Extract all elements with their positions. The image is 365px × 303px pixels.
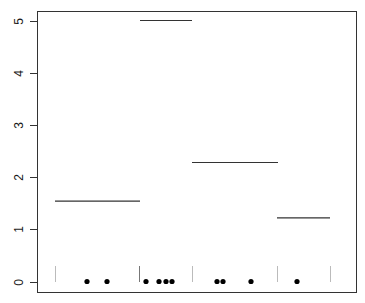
data-point: [104, 279, 109, 284]
plot-frame: [38, 12, 357, 293]
y-tick-label: 1: [12, 226, 26, 233]
y-tick-label: 0: [12, 279, 26, 286]
data-point: [248, 279, 253, 284]
y-tick-label: 3: [12, 122, 26, 129]
boundary-marks: [56, 266, 331, 282]
y-tick-label: 2: [12, 174, 26, 181]
y-tick-label: 5: [12, 18, 26, 25]
data-point: [294, 279, 299, 284]
data-point: [169, 279, 174, 284]
data-point: [84, 279, 89, 284]
segment-mean-lines: [55, 21, 330, 218]
data-point: [143, 279, 148, 284]
data-point: [214, 279, 219, 284]
data-point: [163, 279, 168, 284]
chart: 012345: [0, 0, 365, 303]
data-point: [156, 279, 161, 284]
y-axis: 012345: [12, 18, 37, 286]
y-tick-label: 4: [12, 70, 26, 77]
data-point: [220, 279, 225, 284]
